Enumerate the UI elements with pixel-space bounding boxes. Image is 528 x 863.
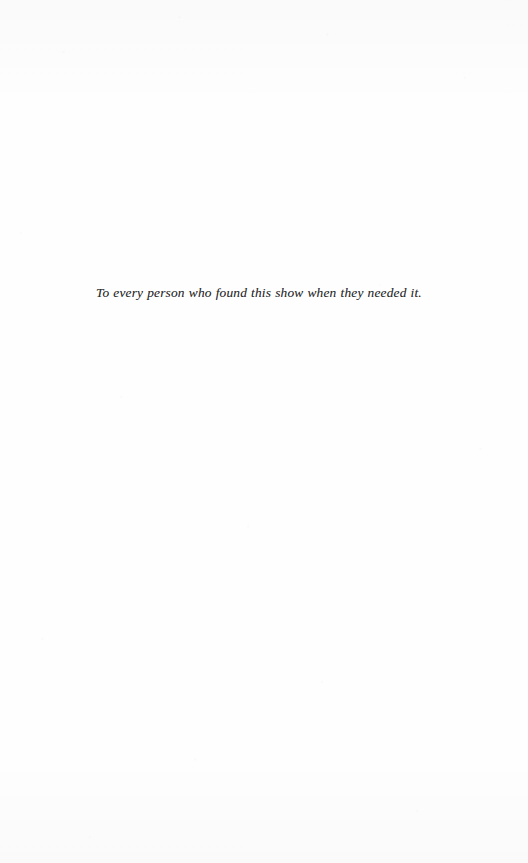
paper-grain-texture [0, 0, 528, 863]
dedication-text: To every person who found this show when… [96, 283, 432, 302]
scan-tone-overlay [0, 0, 528, 863]
dedication-block: To every person who found this show when… [96, 283, 432, 302]
book-page: To every person who found this show when… [0, 0, 528, 863]
